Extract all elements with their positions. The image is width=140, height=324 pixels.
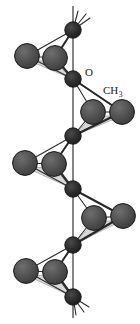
substituent-atom [43, 260, 68, 285]
label-layer: OCH3 [85, 66, 123, 99]
backbone-atom [65, 181, 81, 197]
substituent-atom [13, 151, 38, 176]
methyl-subscript: 3 [119, 90, 123, 99]
substituent-atom [111, 204, 136, 229]
substituent-atom [14, 259, 39, 284]
backbone-atom [65, 22, 81, 38]
substituent-atom [110, 100, 135, 125]
substituent-atom [43, 46, 68, 71]
backbone-atom [65, 71, 81, 87]
substituent-atom [82, 206, 107, 231]
backbone-atom [65, 237, 81, 253]
backbone-atom [65, 289, 81, 305]
substituent-atom [81, 100, 106, 125]
methyl-label: CH3 [103, 84, 123, 99]
bond-layer [25, 30, 123, 297]
molecular-structure-figure: OCH3 [0, 0, 140, 324]
oxygen-label: O [85, 66, 93, 78]
structure-canvas: OCH3 [0, 0, 140, 324]
backbone-atom [65, 128, 81, 144]
substituent-atom [42, 152, 67, 177]
terminal-stub-layer [73, 11, 90, 315]
substituent-atom [15, 44, 40, 69]
